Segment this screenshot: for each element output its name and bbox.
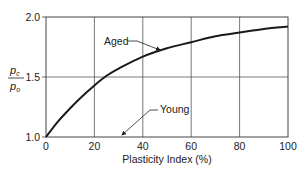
y-tick-label: 1.5 bbox=[25, 71, 40, 83]
svg-text:pc: pc bbox=[9, 64, 20, 77]
y-tick-label: 2.0 bbox=[25, 11, 40, 23]
svg-text:po: po bbox=[9, 80, 20, 93]
x-tick-label: 100 bbox=[279, 140, 297, 152]
chart: 1.01.52.0 020406080100 AgedYoung Plastic… bbox=[0, 0, 308, 173]
young-label: Young bbox=[160, 103, 190, 115]
grid-lines bbox=[46, 17, 288, 137]
x-tick-label: 40 bbox=[137, 140, 149, 152]
annotations: AgedYoung bbox=[104, 35, 190, 135]
x-axis-label: Plasticity Index (%) bbox=[122, 153, 211, 165]
aged-label: Aged bbox=[104, 35, 129, 47]
y-axis-ticks: 1.01.52.0 bbox=[25, 11, 46, 143]
aged-curve bbox=[46, 27, 288, 137]
y-tick-label: 1.0 bbox=[25, 131, 40, 143]
x-tick-label: 0 bbox=[43, 140, 49, 152]
x-tick-label: 60 bbox=[185, 140, 197, 152]
x-tick-label: 80 bbox=[234, 140, 246, 152]
y-axis-label: pc po bbox=[8, 64, 24, 93]
x-axis-ticks: 020406080100 bbox=[43, 140, 297, 152]
x-tick-label: 20 bbox=[89, 140, 101, 152]
